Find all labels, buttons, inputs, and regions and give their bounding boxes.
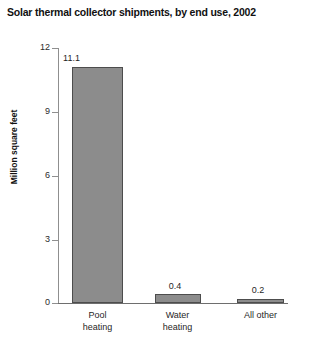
y-tick-0 <box>52 303 58 304</box>
category-label-water-heating-line1: Water <box>166 310 190 320</box>
plot-area <box>58 48 288 303</box>
bar-value-all-other: 0.2 <box>203 285 313 295</box>
bar-water-heating <box>155 294 201 303</box>
bar-all-other <box>237 299 284 303</box>
category-label-pool-heating-line1: Pool <box>88 310 106 320</box>
bar-pool-heating <box>72 67 123 303</box>
bar-chart-figure: Solar thermal collector shipments, by en… <box>0 0 313 341</box>
y-tick-label-9: 9 <box>26 107 50 116</box>
category-label-water-heating: Waterheating <box>132 309 223 333</box>
chart-title: Solar thermal collector shipments, by en… <box>7 6 307 19</box>
category-label-all-other: All other <box>215 309 306 321</box>
category-label-pool-heating: Poolheating <box>52 309 143 333</box>
category-label-water-heating-line2: heating <box>163 322 193 332</box>
y-tick-label-3: 3 <box>26 235 50 244</box>
x-axis-line <box>58 303 288 304</box>
y-tick-label-12: 12 <box>26 43 50 52</box>
y-tick-label-0: 0 <box>26 298 50 307</box>
category-label-pool-heating-line2: heating <box>83 322 113 332</box>
bar-value-pool-heating: 11.1 <box>14 53 129 63</box>
y-axis-title: Million square feet <box>9 87 19 207</box>
category-label-all-other-line1: All other <box>244 310 277 320</box>
y-tick-label-6: 6 <box>26 171 50 180</box>
